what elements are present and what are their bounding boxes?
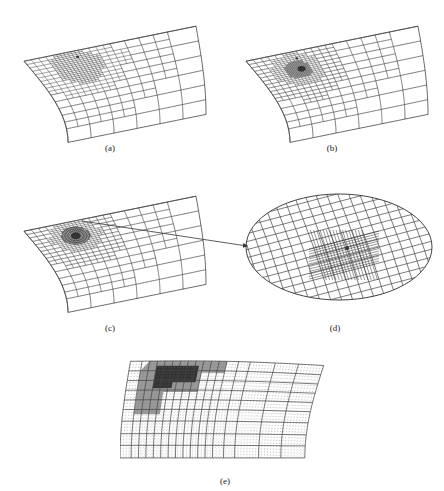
mesh-line-horizontal	[63, 261, 69, 262]
mesh-line-horizontal	[302, 59, 305, 60]
mesh-line-vertical	[76, 248, 77, 250]
mesh-line-vertical	[87, 66, 88, 68]
mesh-line-horizontal	[284, 113, 296, 116]
mesh-line-horizontal	[72, 93, 78, 94]
mesh-line-vertical	[332, 59, 334, 63]
mesh-line-horizontal	[284, 78, 287, 79]
mesh-line-horizontal	[60, 65, 63, 66]
mesh-line-vertical	[92, 80, 93, 82]
mesh-line-horizontal	[316, 77, 319, 78]
mesh-line-vertical	[54, 233, 55, 235]
mesh-line-horizontal	[70, 73, 73, 74]
mesh-line-vertical	[107, 52, 109, 56]
mesh-line-vertical	[70, 74, 71, 76]
mesh-line-horizontal	[296, 80, 299, 81]
mesh-line-vertical	[54, 249, 56, 252]
mesh-line-horizontal	[112, 280, 124, 282]
mesh-line-horizontal	[323, 56, 330, 57]
mesh-line-horizontal	[55, 269, 67, 272]
mesh-line-vertical	[62, 227, 63, 229]
mesh-line-horizontal	[60, 71, 63, 72]
mesh-line-vertical	[63, 69, 64, 71]
mesh-line-horizontal	[88, 67, 91, 68]
mesh-line-vertical	[292, 79, 293, 81]
mesh-line-horizontal	[305, 58, 308, 59]
mesh-line-horizontal	[112, 247, 118, 248]
mesh-line-horizontal	[309, 65, 312, 66]
mesh-line-horizontal	[52, 241, 55, 242]
mesh-line-vertical	[86, 76, 87, 78]
mesh-line-vertical	[78, 76, 79, 78]
mesh-line-horizontal	[92, 91, 104, 94]
mesh-line-vertical	[101, 84, 103, 87]
mesh-line-vertical	[95, 80, 96, 82]
mesh-line-horizontal	[114, 79, 127, 82]
mesh-line-vertical	[68, 88, 70, 91]
mesh-line-vertical	[89, 75, 90, 77]
mesh-line-horizontal	[74, 74, 77, 75]
mesh-line-horizontal	[93, 244, 96, 245]
zoom-ellipse-outline	[246, 194, 432, 300]
mesh-line-horizontal	[141, 251, 153, 254]
mesh-line-horizontal	[126, 76, 139, 79]
mesh-line-horizontal	[260, 77, 267, 78]
mesh-line-vertical	[298, 54, 299, 56]
zoom-grid-line	[244, 192, 267, 302]
mesh-line-horizontal	[46, 67, 53, 68]
mesh-line-horizontal	[75, 246, 78, 247]
mesh-line-horizontal	[95, 236, 98, 237]
mesh-line-horizontal	[74, 280, 86, 283]
mesh-line-vertical	[297, 82, 298, 84]
mesh-line-vertical	[83, 273, 86, 280]
mesh-line-vertical	[66, 244, 67, 246]
mesh-line-horizontal	[374, 71, 387, 74]
mesh-line-horizontal	[117, 242, 123, 243]
mesh-line-horizontal	[255, 70, 262, 71]
mesh-line-horizontal	[39, 239, 46, 240]
mesh-line-horizontal	[58, 243, 61, 244]
mesh-line-horizontal	[108, 82, 114, 83]
mesh-line-vertical	[86, 64, 87, 66]
mesh-line-vertical	[302, 79, 303, 81]
mesh-line-vertical	[94, 78, 95, 80]
mesh-line-vertical	[79, 77, 80, 79]
mesh-line-vertical	[72, 223, 73, 225]
mesh-line-horizontal	[79, 247, 82, 248]
mesh-line-horizontal	[281, 79, 284, 80]
mesh-line-horizontal	[77, 79, 80, 80]
mesh-line-horizontal	[69, 61, 72, 62]
mesh-line-vertical	[71, 81, 72, 83]
mesh-line-vertical	[53, 237, 54, 239]
mesh-line-vertical	[117, 89, 120, 96]
mesh-line-vertical	[112, 233, 114, 237]
mesh-line-horizontal	[58, 62, 61, 63]
mesh-line-vertical	[97, 232, 98, 234]
mesh-line-vertical	[92, 94, 95, 101]
mesh-line-horizontal	[273, 63, 276, 64]
mesh-line-horizontal	[289, 58, 293, 59]
mesh-line-vertical	[50, 254, 52, 257]
mesh-line-horizontal	[98, 57, 101, 58]
mesh-line-horizontal	[313, 78, 316, 79]
mesh-line-vertical	[331, 71, 333, 75]
mesh-line-horizontal	[75, 76, 78, 77]
mesh-line-horizontal	[292, 90, 298, 91]
mesh-line-horizontal	[120, 232, 133, 235]
mesh-line-horizontal	[361, 74, 374, 77]
mesh-line-vertical	[62, 57, 63, 59]
mesh-line-vertical	[87, 52, 88, 54]
mesh-line-horizontal	[324, 71, 331, 72]
mesh-line-horizontal	[88, 243, 91, 244]
mesh-line-horizontal	[59, 227, 63, 228]
mesh-line-horizontal	[39, 69, 46, 70]
mesh-line-horizontal	[62, 57, 66, 58]
mesh-line-vertical	[64, 77, 65, 79]
mesh-line-horizontal	[122, 100, 134, 103]
mesh-line-vertical	[48, 230, 49, 232]
mesh-line-horizontal	[290, 53, 294, 54]
mesh-line-horizontal	[246, 26, 418, 61]
mesh-line-horizontal	[65, 78, 68, 79]
mesh-line-vertical	[84, 61, 85, 63]
mesh-line-horizontal	[93, 246, 96, 247]
mesh-line-horizontal	[79, 221, 83, 222]
